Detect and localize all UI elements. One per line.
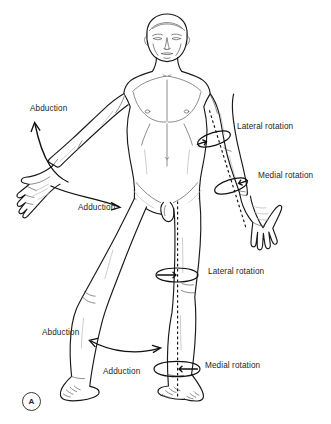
rotating-hand-group	[240, 195, 282, 250]
right-palm-line-1	[253, 206, 266, 208]
right-palm-line-2	[255, 212, 269, 214]
label-leg-adduction: Adduction	[103, 368, 140, 376]
label-arm-lateral-rotation: Lateral rotation	[237, 123, 293, 131]
abducted-hand-group	[17, 165, 60, 218]
anatomy-figure: Abduction Adduction Lateral rotation Med…	[0, 0, 331, 424]
label-leg-lateral-rotation: Lateral rotation	[208, 268, 264, 276]
ring-leg-upper-arrowhead	[158, 272, 176, 278]
rotating-hand-outline	[240, 195, 282, 250]
label-arm-medial-rotation: Medial rotation	[258, 172, 313, 180]
label-arm-abduction: Abduction	[30, 105, 67, 113]
genitalia	[161, 202, 174, 221]
body-diagram-svg	[0, 0, 331, 424]
head-group	[145, 14, 190, 62]
arrow-leg-abduction-adduction	[91, 341, 159, 352]
label-leg-abduction: Abduction	[42, 329, 79, 337]
label-arm-adduction: Adduction	[78, 204, 115, 212]
panel-label-a: A	[22, 392, 41, 411]
label-leg-medial-rotation: Medial rotation	[205, 362, 260, 370]
abducted-hand-outline	[17, 165, 60, 218]
